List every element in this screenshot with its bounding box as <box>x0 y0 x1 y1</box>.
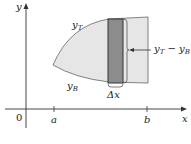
x-axis-arrowhead <box>181 107 187 112</box>
height-label-minus: − <box>164 43 179 54</box>
y-axis-label: y <box>16 2 22 12</box>
height-label-b-sub: B <box>185 48 190 56</box>
approximating-strip <box>108 19 123 83</box>
bottom-curve-sub: B <box>73 85 78 93</box>
origin-label: 0 <box>16 113 22 123</box>
strip-width-label: Δx <box>107 90 120 100</box>
x-axis-label: x <box>182 114 188 124</box>
strip-height-label: yT − yB <box>154 44 190 56</box>
diagram-graphics <box>0 0 191 144</box>
width-brace <box>108 84 123 87</box>
region-between-curves-diagram: y x 0 a b yT yB Δx yT − yB <box>0 0 191 144</box>
bottom-curve-label: yB <box>67 81 78 93</box>
top-curve-sub: T <box>78 24 83 32</box>
tick-b-label: b <box>144 115 150 125</box>
top-curve-label: yT <box>72 20 82 32</box>
tick-a-label: a <box>51 115 57 125</box>
y-axis-arrowhead <box>24 3 29 9</box>
